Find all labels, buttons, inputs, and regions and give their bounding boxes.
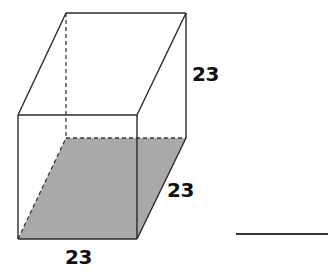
depth-label: 23	[167, 180, 194, 200]
width-label: 23	[65, 247, 92, 267]
height-label: 23	[192, 64, 219, 84]
edge-top-right-diagonal	[137, 13, 186, 115]
edge-top-left-diagonal	[18, 13, 66, 115]
answer-blank-line[interactable]	[236, 233, 328, 235]
rectangular-prism-diagram	[0, 0, 329, 272]
